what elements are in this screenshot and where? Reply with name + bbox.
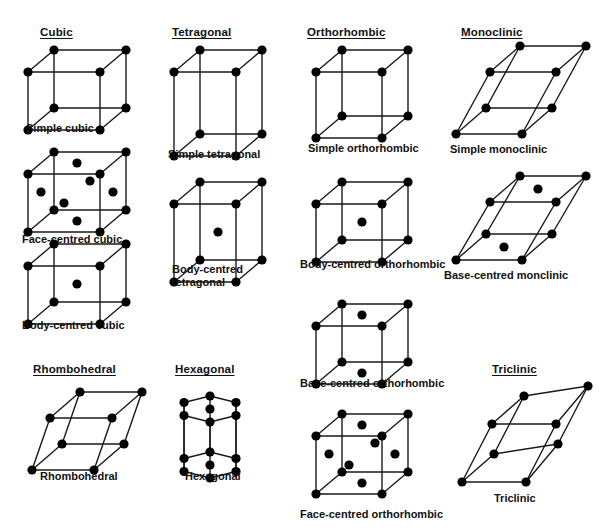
caption-simple-orthorhombic: Simple orthorhombic xyxy=(308,142,419,155)
lattice-face-centred-orthorhombic xyxy=(310,410,418,490)
lattice-base-centred-orthorhombic xyxy=(310,300,418,380)
group-title-hexagonal: Hexagonal xyxy=(175,363,235,375)
caption-face-centred-orthorhombic: Face-centred orthorhombic xyxy=(300,508,443,521)
caption-simple-monoclinic: Simple monoclinic xyxy=(450,143,547,156)
lattice-simple-orthorhombic xyxy=(310,46,418,134)
caption-simple-tetragonal: Simple tetragonal xyxy=(168,148,260,161)
caption-simple-cubic: Simple cubic xyxy=(26,122,94,135)
group-title-rhombohedral: Rhombohedral xyxy=(33,363,116,375)
group-title-triclinic: Triclinic xyxy=(492,363,537,375)
caption-hexagonal: Hexagonal xyxy=(185,470,241,483)
lattice-body-centred-cubic xyxy=(22,240,132,318)
caption-body-centred-tetragonal: Body-centred tetragonal xyxy=(172,263,258,289)
caption-base-centred-orthorhombic: Base-centred orthorhombic xyxy=(300,377,444,390)
lattice-hexagonal xyxy=(172,388,276,474)
lattice-simple-monoclinic xyxy=(450,42,580,148)
lattice-triclinic xyxy=(456,392,588,488)
lattice-simple-cubic xyxy=(22,46,132,124)
bravais-lattice-figure: CubicTetragonalOrthorhombicMonoclinicRho… xyxy=(0,0,614,532)
group-title-tetragonal: Tetragonal xyxy=(172,26,231,38)
lattice-simple-tetragonal xyxy=(168,46,274,152)
group-title-monoclinic: Monoclinic xyxy=(461,26,523,38)
lattice-rhombohedral xyxy=(26,388,142,474)
caption-body-centred-cubic: Body-centred cubic xyxy=(22,319,125,332)
group-title-orthorhombic: Orthorhombic xyxy=(307,26,385,38)
lattice-body-centred-orthorhombic xyxy=(310,178,418,258)
caption-body-centred-orthorhombic: Body-centred orthorhombic xyxy=(300,258,445,271)
caption-triclinic: Triclinic xyxy=(494,492,536,505)
caption-rhombohedral: Rhombohedral xyxy=(40,470,118,483)
lattice-face-centred-cubic xyxy=(22,148,132,226)
caption-base-centred-monoclinic: Base-centred monclinic xyxy=(444,269,568,282)
lattice-base-centred-monoclinic xyxy=(450,172,580,274)
group-title-cubic: Cubic xyxy=(40,26,73,38)
